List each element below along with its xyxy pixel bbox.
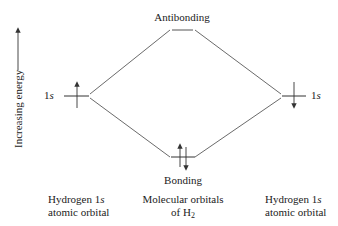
left-caption-line1: Hydrogen 1s [48, 193, 109, 206]
right-caption: Hydrogen 1s atomic orbital [265, 193, 326, 219]
center-caption: Molecular orbitals of H2 [143, 193, 224, 222]
center-caption-line1: Molecular orbitals [143, 193, 224, 206]
right-caption-line1: Hydrogen 1s [265, 193, 326, 206]
energy-axis-label: Increasing energy [12, 70, 24, 148]
left-caption-line2: atomic orbital [48, 206, 109, 219]
left-1s-label: 1s [44, 89, 54, 102]
antibonding-label: Antibonding [154, 11, 210, 24]
right-1s-label: 1s [311, 89, 321, 102]
correlation-lines [90, 30, 281, 157]
mo-diagram: Increasing energy Antibonding 1s 1s Bond… [0, 0, 338, 226]
center-caption-line2: of H2 [143, 206, 224, 222]
right-caption-line2: atomic orbital [265, 206, 326, 219]
left-caption: Hydrogen 1s atomic orbital [48, 193, 109, 219]
bonding-label: Bonding [164, 174, 202, 187]
